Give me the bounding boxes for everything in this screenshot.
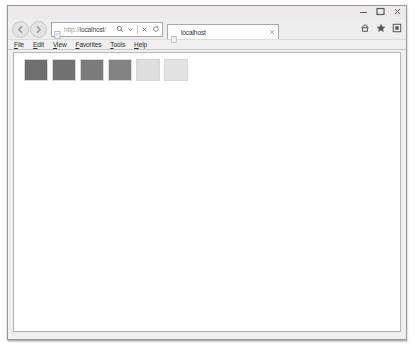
desktop-background: http://localhost/	[0, 0, 415, 351]
color-swatch	[80, 59, 104, 81]
minimize-button[interactable]	[358, 7, 369, 16]
menu-item-tools[interactable]: Tools	[110, 40, 125, 49]
menu-item-help[interactable]: Help	[134, 40, 147, 49]
tab-strip: localhost	[167, 19, 279, 39]
back-arrow-icon	[16, 25, 25, 34]
back-button[interactable]	[12, 21, 29, 38]
window-drop-shadow	[8, 340, 408, 342]
color-swatch	[24, 59, 48, 81]
page-content-area	[13, 52, 401, 332]
maximize-button[interactable]	[375, 7, 386, 16]
address-bar[interactable]: http://localhost/	[51, 22, 163, 37]
stop-icon[interactable]	[140, 24, 149, 34]
window-controls	[358, 7, 403, 16]
url-text: http://localhost/	[64, 25, 113, 34]
menu-item-view[interactable]: View	[53, 40, 67, 49]
close-button[interactable]	[392, 7, 403, 16]
color-swatch	[52, 59, 76, 81]
tab-title: localhost	[181, 29, 265, 36]
forward-button[interactable]	[30, 21, 47, 38]
navigation-toolbar: http://localhost/	[8, 19, 406, 39]
refresh-icon[interactable]	[151, 24, 160, 34]
menu-item-favorites[interactable]: Favorites	[76, 40, 102, 49]
color-swatch	[136, 59, 160, 81]
command-bar	[360, 23, 402, 33]
forward-arrow-icon	[34, 25, 43, 34]
browser-window: http://localhost/	[7, 5, 407, 340]
home-icon[interactable]	[360, 23, 370, 33]
favorites-star-icon[interactable]	[376, 23, 386, 33]
tab-page-icon	[171, 29, 178, 36]
page-globe-icon	[54, 25, 62, 33]
menu-item-edit[interactable]: Edit	[33, 40, 44, 49]
menu-bar: File Edit View Favorites Tools Help	[8, 39, 406, 50]
title-bar	[8, 6, 406, 19]
menu-item-file[interactable]: File	[14, 40, 24, 49]
tab-localhost[interactable]: localhost	[167, 24, 279, 39]
color-swatch	[108, 59, 132, 81]
color-swatch	[164, 59, 188, 81]
color-swatch-row	[24, 59, 188, 81]
tools-gear-icon[interactable]	[392, 23, 402, 33]
address-separator	[137, 25, 138, 34]
search-icon[interactable]	[115, 24, 124, 34]
tab-close-icon[interactable]	[268, 29, 275, 36]
chevron-down-icon[interactable]	[126, 24, 135, 34]
